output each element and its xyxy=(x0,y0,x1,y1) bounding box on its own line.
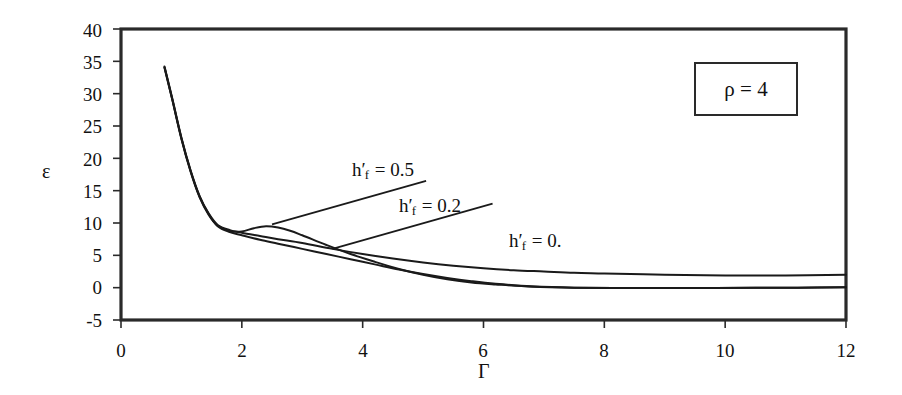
x-axis-title: Γ xyxy=(478,360,490,383)
y-axis-title: ε xyxy=(42,160,50,183)
ytick-label-5: 5 xyxy=(56,246,102,265)
ytick-label-15: 15 xyxy=(56,182,102,201)
chart-figure: 40 35 30 25 20 15 10 5 0 -5 0 2 4 6 8 10… xyxy=(0,0,902,395)
curve-label-hf-05-text: h′f = 0.5 xyxy=(352,159,414,180)
xtick-label-4: 4 xyxy=(341,341,385,360)
ytick-label-40: 40 xyxy=(56,21,102,40)
ytick-label-35: 35 xyxy=(56,53,102,72)
ytick-label-0: 0 xyxy=(56,278,102,297)
curve-label-hf-02-text: h′f = 0.2 xyxy=(399,195,461,216)
parameter-box: ρ = 4 xyxy=(694,62,798,116)
curve-label-hf-02: h′f = 0.2 xyxy=(399,196,461,218)
parameter-box-text: ρ = 4 xyxy=(724,77,767,102)
xtick-label-2: 2 xyxy=(220,341,264,360)
curve-label-hf-0: h′f = 0. xyxy=(509,231,561,253)
xtick-label-12: 12 xyxy=(824,341,868,360)
ytick-label-25: 25 xyxy=(56,117,102,136)
ytick-label-neg5: -5 xyxy=(56,311,102,330)
ytick-label-10: 10 xyxy=(56,214,102,233)
xtick-label-10: 10 xyxy=(703,341,747,360)
xtick-label-8: 8 xyxy=(582,341,626,360)
xtick-label-0: 0 xyxy=(99,341,143,360)
ytick-label-30: 30 xyxy=(56,85,102,104)
xtick-label-6: 6 xyxy=(461,341,505,360)
ytick-label-20: 20 xyxy=(56,150,102,169)
curve-label-hf-05: h′f = 0.5 xyxy=(352,160,414,182)
curve-label-hf-0-text: h′f = 0. xyxy=(509,230,561,251)
